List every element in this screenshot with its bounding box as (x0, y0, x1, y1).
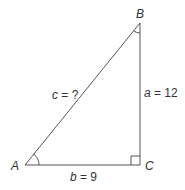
angle-arc-b (134, 31, 140, 33)
vertex-a-label: A (10, 159, 19, 173)
vertex-c-label: C (145, 159, 154, 173)
triangle-diagram: A B C c = ? a = 12 b = 9 (0, 0, 185, 190)
angle-arc-a (34, 154, 39, 165)
side-b-label: b = 9 (70, 170, 97, 184)
triangle (25, 23, 140, 165)
right-angle-marker (131, 156, 140, 165)
vertex-b-label: B (136, 7, 144, 21)
side-a-label: a = 12 (144, 86, 178, 100)
side-c-label: c = ? (52, 88, 79, 102)
